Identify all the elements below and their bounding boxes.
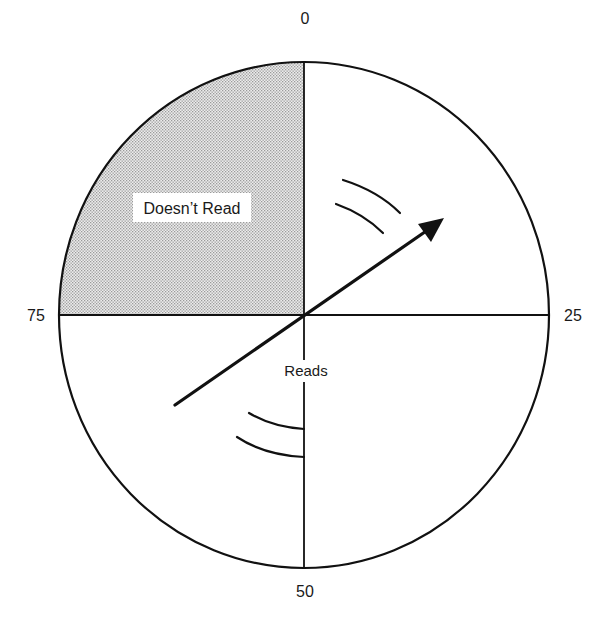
rotation-arcs-upper-icon xyxy=(336,180,400,233)
dial-diagram: Doesn’t Read Reads 0 25 50 75 xyxy=(0,0,600,619)
rotation-arcs-lower-icon xyxy=(237,413,304,457)
dial-label-bottom: 50 xyxy=(296,583,314,600)
dial-label-left: 75 xyxy=(27,307,45,324)
reads-label: Reads xyxy=(284,362,327,379)
dial-label-top: 0 xyxy=(301,10,310,27)
doesnt-read-label: Doesn’t Read xyxy=(144,200,241,217)
dial-label-right: 25 xyxy=(564,307,582,324)
